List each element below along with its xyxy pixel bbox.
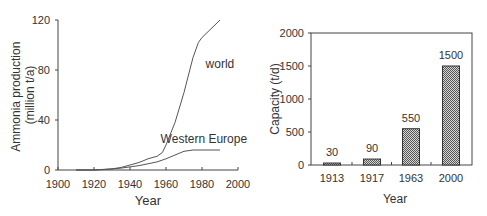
series-annotation: world [205,57,235,71]
y-tick-label: 120 [32,14,50,26]
series-line-western-europe [76,150,220,170]
x-tick-label: 1963 [399,172,423,184]
bar-1913 [324,163,341,165]
series-line-world [76,20,220,170]
x-tick-label: 2000 [226,178,250,190]
bar-1963 [403,129,420,165]
bar-chart-x-label: Year [383,192,407,206]
bar-chart: 0500100015002000 30191390191755019631500… [268,27,472,206]
x-tick-label: 2000 [439,172,463,184]
y-tick-label: 80 [38,64,50,76]
x-tick-label: 1940 [118,178,142,190]
bar-value-label: 1500 [439,49,463,61]
bar-value-label: 90 [366,142,378,154]
series-annotation: Western Europe [161,132,248,146]
x-tick-label: 1913 [320,172,344,184]
y-tick-label: 40 [38,114,50,126]
y-tick-label: 1000 [280,93,304,105]
line-chart-x-label: Year [135,193,162,208]
bar-2000 [443,66,460,165]
bar-value-label: 550 [402,112,420,124]
x-tick-label: 1960 [154,178,178,190]
figure: 04080120 190019201940196019802000 Year A… [0,0,487,216]
y-tick-label: 1500 [280,60,304,72]
x-tick-label: 1920 [82,178,106,190]
x-tick-label: 1917 [360,172,384,184]
x-tick-label: 1980 [190,178,214,190]
y-tick-label: 0 [44,164,50,176]
bar-value-label: 30 [326,146,338,158]
bar-chart-y-label: Capacity (t/d) [268,63,282,134]
x-tick-label: 1900 [46,178,70,190]
y-tick-label: 0 [298,159,304,171]
y-tick-label: 2000 [280,27,304,39]
line-chart: 04080120 190019201940196019802000 Year A… [9,14,250,208]
line-chart-y-label: Ammonia production (million t/a) [9,38,37,151]
y-tick-label: 500 [286,126,304,138]
bar-1917 [364,159,381,165]
